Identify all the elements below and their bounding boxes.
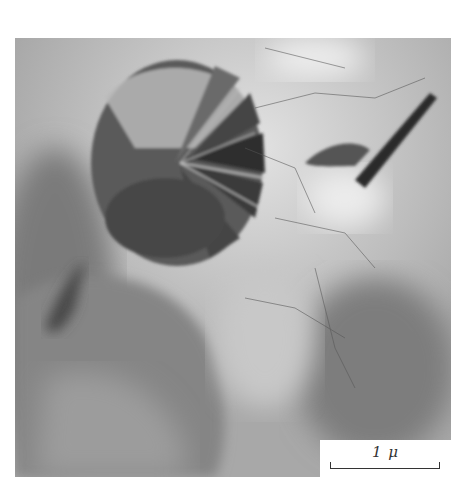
scale-bar [330,462,440,469]
micrograph-image: 1 μ [15,38,451,477]
scale-bar-label: 1 μ [320,443,451,461]
micrograph-texture [15,38,451,477]
scale-bar-box: 1 μ [320,440,451,477]
